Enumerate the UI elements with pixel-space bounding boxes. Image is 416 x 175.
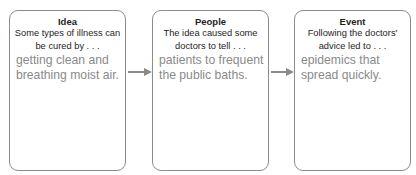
event-title: Event	[295, 16, 410, 27]
idea-prompt: Some types of illness can be cured by . …	[10, 27, 125, 52]
event-answer: epidemics that spread quickly.	[295, 53, 410, 82]
arrow-head	[144, 68, 152, 76]
people-title: People	[153, 16, 268, 27]
event-prompt: Following the doctors' advice led to . .…	[295, 27, 410, 52]
right-arrow-icon	[271, 68, 294, 76]
cropped-instruction-text	[22, 0, 302, 3]
people-answer: patients to frequent the public baths.	[153, 53, 268, 82]
arrow-head	[286, 68, 294, 76]
people-box: People The idea caused some doctors to t…	[152, 10, 269, 171]
arrow-shaft	[128, 71, 145, 73]
idea-box: Idea Some types of illness can be cured …	[9, 10, 126, 171]
idea-title: Idea	[10, 16, 125, 27]
people-prompt: The idea caused some doctors to tell . .…	[153, 27, 268, 52]
arrow-shaft	[271, 71, 287, 73]
idea-answer: getting clean and breathing moist air.	[10, 53, 125, 82]
right-arrow-icon	[128, 68, 152, 76]
event-box: Event Following the doctors' advice led …	[294, 10, 411, 171]
